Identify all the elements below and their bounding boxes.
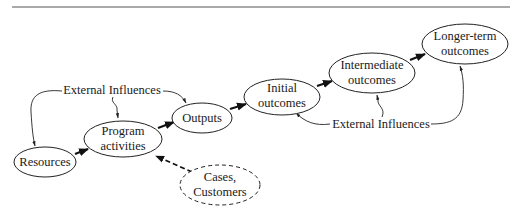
arrow-intermediate-to-longer	[410, 54, 425, 60]
node-program-activities: Program activities	[84, 121, 162, 157]
node-label: outcomes	[258, 96, 306, 110]
node-label: outcomes	[348, 73, 396, 87]
node-initial-outcomes: Initial outcomes	[244, 79, 320, 115]
node-outputs: Outputs	[172, 103, 232, 133]
external-influences-right-label: External Influences	[332, 117, 430, 131]
node-cases-customers: Cases, Customers	[180, 165, 260, 205]
arrow-activities-to-outputs	[158, 122, 174, 128]
logic-model-diagram: Resources Program activities Outputs Ini…	[0, 0, 523, 212]
influence-curve-to-intermediate	[377, 95, 383, 117]
arrow-cases-to-activities	[156, 156, 192, 172]
node-label: outcomes	[441, 44, 489, 58]
node-label: Outputs	[182, 111, 222, 125]
node-label: Longer-term	[434, 29, 497, 43]
node-label: activities	[100, 139, 145, 153]
node-intermediate-outcomes: Intermediate outcomes	[329, 53, 415, 93]
influence-curve-to-initial	[296, 113, 330, 125]
node-label: Cases,	[204, 170, 236, 184]
influence-curve-to-outputs	[163, 91, 186, 103]
arrow-initial-to-intermediate	[317, 81, 332, 86]
node-label: Program	[101, 124, 144, 138]
influence-curve-to-resources	[31, 91, 62, 146]
node-label: Initial	[267, 81, 297, 95]
node-longer-term-outcomes: Longer-term outcomes	[422, 24, 508, 64]
node-label: Resources	[19, 155, 71, 169]
influence-curve-to-longer	[431, 66, 463, 124]
node-resources: Resources	[14, 147, 76, 177]
external-influences-left-label: External Influences	[63, 83, 161, 97]
arrow-outputs-to-initial	[230, 104, 246, 109]
node-label: Customers	[193, 185, 247, 199]
arrow-resources-to-activities	[75, 149, 88, 154]
node-label: Intermediate	[340, 58, 404, 72]
influence-curve-to-activities	[112, 97, 118, 118]
